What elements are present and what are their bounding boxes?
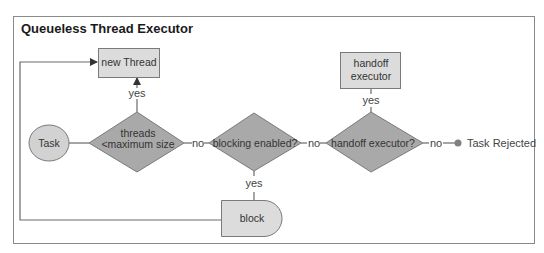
diagram-title: Queueless Thread Executor <box>21 21 193 36</box>
node-handoff-label: handoff executor? <box>331 137 415 149</box>
edge-label-threads-no: no <box>192 137 204 149</box>
node-handoff-executor-line1: handoff <box>354 57 389 69</box>
node-task[interactable]: Task <box>29 125 69 161</box>
node-block-label: block <box>240 212 265 224</box>
node-task-rejected-label: Task Rejected <box>467 137 536 149</box>
node-handoff-executor[interactable]: handoff executor <box>341 53 401 89</box>
edge-label-blocking-yes: yes <box>245 177 263 189</box>
edge-label-threads-yes: yes <box>128 87 146 99</box>
node-handoff-executor-line2: executor <box>351 70 392 82</box>
node-task-rejected[interactable]: Task Rejected <box>455 137 537 149</box>
edge-label-handoff-no: no <box>430 137 442 149</box>
node-block[interactable]: block <box>222 201 283 237</box>
node-new-thread[interactable]: new Thread <box>99 49 160 78</box>
node-threads-line2: <maximum size <box>101 138 174 150</box>
node-new-thread-label: new Thread <box>101 56 156 68</box>
node-task-label: Task <box>38 137 60 149</box>
reject-dot-icon <box>455 140 462 147</box>
edge-label-blocking-no: no <box>308 137 320 149</box>
node-blocking-label: blocking enabled? <box>213 137 298 149</box>
edge-label-handoff-yes: yes <box>362 94 380 106</box>
flowchart-canvas: Queueless Thread Executor Task threads <… <box>0 0 544 253</box>
